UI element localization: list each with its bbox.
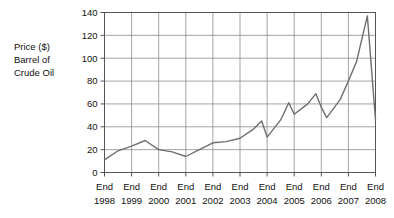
horizontal-gridlines xyxy=(101,13,376,173)
x-tick-label-bottom: 2007 xyxy=(338,195,359,206)
y-tick-labels: 020406080100120140 xyxy=(82,7,98,178)
y-tick-label: 20 xyxy=(87,144,98,155)
x-tick-label-bottom: 2003 xyxy=(229,195,250,206)
x-tick-label-bottom: 2008 xyxy=(365,195,386,206)
x-tick-label-top: End xyxy=(150,181,167,192)
y-tick-label: 140 xyxy=(82,7,98,18)
x-tick-label-bottom: 2000 xyxy=(148,195,169,206)
x-tick-labels-bottom: 1998199920002001200220032004200520062007… xyxy=(94,195,386,206)
x-tick-label-top: End xyxy=(286,181,303,192)
y-tick-label: 80 xyxy=(87,75,98,86)
plot-area: 020406080100120140 EndEndEndEndEndEndEnd… xyxy=(0,0,394,218)
x-tick-label-top: End xyxy=(367,181,384,192)
x-tick-label-bottom: 1998 xyxy=(94,195,115,206)
y-tick-label: 60 xyxy=(87,98,98,109)
x-tick-label-bottom: 2002 xyxy=(202,195,223,206)
y-tick-label: 120 xyxy=(82,30,98,41)
x-tick-labels-top: EndEndEndEndEndEndEndEndEndEndEnd xyxy=(96,181,384,192)
crude-oil-price-chart: Price ($) Barrel of Crude Oil 0204060801… xyxy=(0,0,394,218)
x-tick-label-top: End xyxy=(177,181,194,192)
x-tick-label-bottom: 2006 xyxy=(311,195,332,206)
x-tick-label-bottom: 2004 xyxy=(257,195,278,206)
x-tick-label-top: End xyxy=(313,181,330,192)
x-tick-label-bottom: 2001 xyxy=(175,195,196,206)
y-tick-label: 40 xyxy=(87,121,98,132)
x-tick-label-top: End xyxy=(232,181,249,192)
x-tick-label-bottom: 1999 xyxy=(121,195,142,206)
x-tick-label-top: End xyxy=(123,181,140,192)
x-tick-label-top: End xyxy=(204,181,221,192)
x-tick-label-top: End xyxy=(96,181,113,192)
vertical-gridlines xyxy=(105,13,376,177)
x-tick-label-bottom: 2005 xyxy=(284,195,305,206)
x-tick-label-top: End xyxy=(259,181,276,192)
x-tick-label-top: End xyxy=(340,181,357,192)
y-tick-label: 0 xyxy=(92,167,97,178)
y-tick-label: 100 xyxy=(82,53,98,64)
